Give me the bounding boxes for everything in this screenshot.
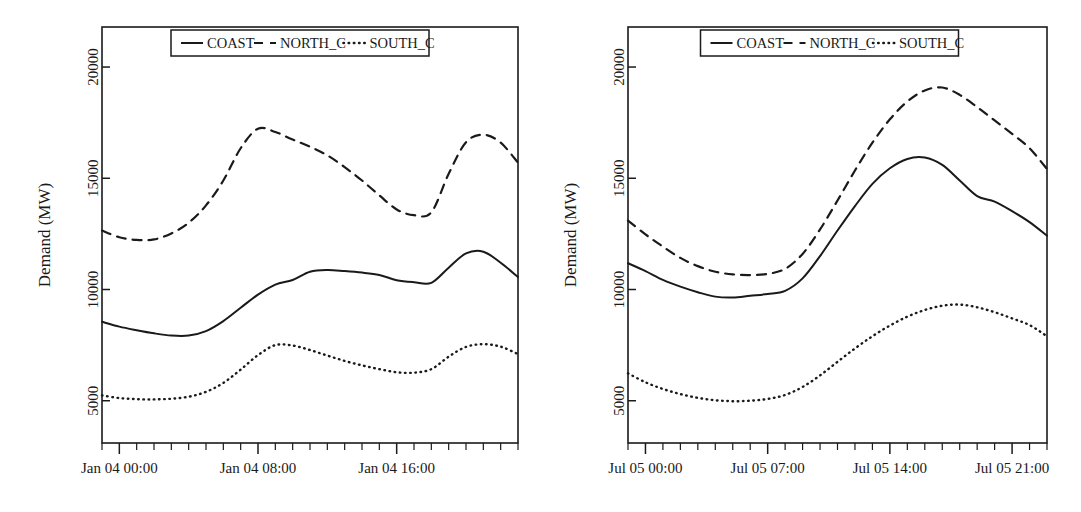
legend-label-north_c: NORTH_C [810,35,876,51]
series-line-south_c [102,344,518,399]
series-line-south_c [628,305,1047,402]
series-line-north_c [628,87,1047,275]
legend-label-north_c: NORTH_C [280,35,346,51]
plot-frame [102,27,518,443]
plot-frame [628,27,1047,443]
chart-svg-left: 5000100001500020000Demand (MW)Jan 04 00:… [0,0,540,512]
x-axis-tick-label: Jul 05 00:00 [608,460,682,476]
y-axis-tick-label: 20000 [85,48,101,86]
x-axis-tick-label: Jan 04 00:00 [81,460,158,476]
series-line-north_c [102,128,518,240]
y-axis-tick-label: 20000 [611,48,627,86]
series-line-coast [628,157,1047,297]
legend-label-coast: COAST [207,35,255,51]
series-line-coast [102,251,518,336]
x-axis-tick-label: Jul 05 14:00 [853,460,927,476]
chart-svg-right: 5000100001500020000Demand (MW)Jul 05 00:… [540,0,1081,512]
y-axis-tick-label: 10000 [85,271,101,309]
y-axis-tick-label: 5000 [85,386,101,416]
y-axis-tick-label: 10000 [611,271,627,309]
chart-panel-right: 5000100001500020000Demand (MW)Jul 05 00:… [540,0,1081,512]
y-axis-tick-label: 5000 [611,386,627,416]
x-axis-tick-label: Jan 04 16:00 [358,460,435,476]
x-axis-tick-label: Jan 04 08:00 [220,460,297,476]
y-axis-title: Demand (MW) [561,183,580,287]
figure-container: 5000100001500020000Demand (MW)Jan 04 00:… [0,0,1081,512]
y-axis-tick-label: 15000 [611,160,627,198]
x-axis-tick-label: Jul 05 21:00 [975,460,1049,476]
legend-label-south_c: SOUTH_C [369,35,434,51]
chart-panel-left: 5000100001500020000Demand (MW)Jan 04 00:… [0,0,540,512]
legend-label-south_c: SOUTH_C [899,35,964,51]
legend-label-coast: COAST [737,35,785,51]
y-axis-title: Demand (MW) [35,183,54,287]
y-axis-tick-label: 15000 [85,160,101,198]
x-axis-tick-label: Jul 05 07:00 [731,460,805,476]
